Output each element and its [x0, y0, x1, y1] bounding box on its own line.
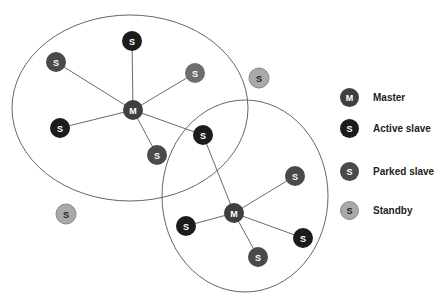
link-line — [133, 73, 195, 110]
parked-slave-node: S — [46, 52, 66, 72]
svg-text:S: S — [129, 37, 135, 47]
active-slave-node-icon: S — [340, 119, 359, 138]
nodes: MSSSSSSMSSSSSS — [46, 31, 313, 267]
legend-item-parked-slave: S Parked slave — [340, 162, 434, 181]
standby-node: S — [249, 68, 269, 88]
legend-label-master: Master — [373, 92, 405, 103]
master-node: M — [224, 203, 244, 223]
standby-in-node: S — [185, 63, 205, 83]
master-node: M — [123, 100, 143, 120]
master-node-icon: M — [340, 88, 359, 107]
active-slave-node: S — [293, 228, 313, 248]
svg-text:S: S — [63, 210, 69, 220]
legend-item-standby: S Standby — [340, 201, 412, 220]
link-line — [132, 41, 133, 110]
legend-label-active-slave: Active slave — [373, 123, 431, 134]
active-slave-node: S — [193, 125, 213, 145]
parked-slave-node: S — [248, 247, 268, 267]
standby-node: S — [56, 204, 76, 224]
svg-text:S: S — [255, 253, 261, 263]
piconet-diagram: MSSSSSSMSSSSSS — [0, 0, 448, 303]
link-line — [234, 176, 295, 213]
svg-text:S: S — [53, 58, 59, 68]
svg-text:S: S — [154, 151, 160, 161]
active-slave-node: S — [50, 118, 70, 138]
parked-slave-node: S — [285, 166, 305, 186]
svg-text:S: S — [192, 69, 198, 79]
svg-text:S: S — [57, 124, 63, 134]
active-slave-node: S — [122, 31, 142, 51]
link-line — [56, 62, 133, 110]
parked-slave-node: S — [147, 145, 167, 165]
link-line — [234, 213, 303, 238]
svg-text:S: S — [300, 234, 306, 244]
svg-text:S: S — [256, 74, 262, 84]
legend-item-master: M Master — [340, 88, 405, 107]
active-slave-node: S — [176, 216, 196, 236]
parked-slave-node-icon: S — [340, 162, 359, 181]
link-line — [203, 135, 234, 213]
svg-text:S: S — [183, 222, 189, 232]
legend-label-standby: Standby — [373, 205, 412, 216]
link-line — [133, 110, 203, 135]
svg-text:M: M — [230, 209, 238, 219]
svg-text:S: S — [292, 172, 298, 182]
link-line — [60, 110, 133, 128]
svg-text:S: S — [200, 131, 206, 141]
svg-text:M: M — [129, 106, 137, 116]
standby-node-icon: S — [340, 201, 359, 220]
legend-label-parked-slave: Parked slave — [373, 166, 434, 177]
legend-item-active-slave: S Active slave — [340, 119, 431, 138]
